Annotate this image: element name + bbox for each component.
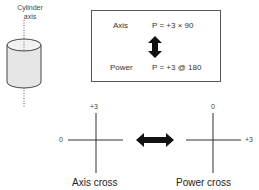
cylinder-axis-label: Cylinder axis bbox=[10, 3, 50, 21]
power-cross-top-label: 0 bbox=[211, 103, 215, 110]
power-cross-right-label: +3 bbox=[245, 136, 253, 143]
axis-cross-top-label: +3 bbox=[90, 103, 98, 110]
power-row-label: Power bbox=[110, 63, 133, 72]
axis-cross-left-label: 0 bbox=[59, 136, 63, 143]
axis-cross-diagram bbox=[68, 113, 124, 173]
cylinder-icon bbox=[0, 20, 50, 110]
power-row-formula: P = +3 @ 180 bbox=[152, 63, 201, 72]
cylinder-label-line1: Cylinder bbox=[10, 3, 50, 12]
double-horizontal-arrow-icon bbox=[136, 133, 174, 147]
axis-row-label: Axis bbox=[113, 21, 128, 30]
power-cross-caption: Power cross bbox=[176, 177, 231, 188]
double-vertical-arrow-icon bbox=[148, 36, 162, 58]
axis-cross-caption: Axis cross bbox=[72, 177, 118, 188]
power-cross-diagram bbox=[186, 113, 242, 173]
axis-row-formula: P = +3 × 90 bbox=[152, 21, 193, 30]
